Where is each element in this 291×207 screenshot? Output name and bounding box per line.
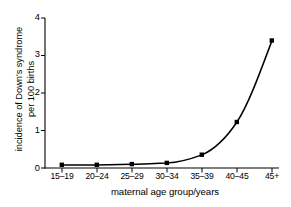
data-point-30-34 <box>165 161 169 165</box>
data-series-line <box>62 41 272 166</box>
data-point-markers <box>60 38 274 167</box>
chart-figure: incidence of Down's syndrome per 100 bir… <box>0 0 291 207</box>
data-point-35-39 <box>200 153 204 157</box>
data-point-40-45 <box>235 120 239 124</box>
x-tick-marks <box>62 168 272 173</box>
data-point-45plus <box>270 38 274 42</box>
y-tick-marks <box>41 18 45 168</box>
data-point-15-19 <box>60 163 64 167</box>
plot-area <box>0 0 291 207</box>
data-point-25-29 <box>130 162 134 166</box>
data-point-20-24 <box>95 163 99 167</box>
